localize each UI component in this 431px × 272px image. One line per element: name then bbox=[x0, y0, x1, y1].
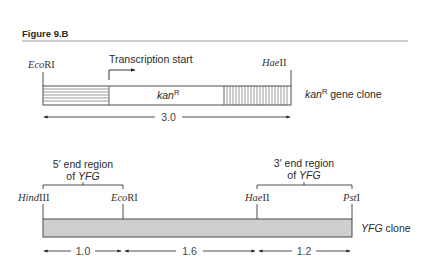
figure-diagram: Figure 9.B EcoRI HaeII Transcription sta… bbox=[0, 0, 431, 272]
kanR-clone-caption: kanR gene clone bbox=[305, 87, 382, 100]
site-label-ecori-bottom: EcoRI bbox=[110, 192, 138, 203]
site-label-psti: PstI bbox=[342, 192, 360, 203]
site-label-haeii-bottom: HaeII bbox=[244, 192, 270, 203]
five-prime-bracket bbox=[43, 182, 123, 189]
distance-label: 1.2 bbox=[297, 245, 312, 257]
transcription-start-arrow-icon bbox=[109, 70, 135, 80]
transcription-start-label: Transcription start bbox=[109, 53, 193, 65]
distance-1-6: 1.6 bbox=[125, 245, 255, 257]
three-prime-bracket bbox=[257, 182, 352, 189]
five-prime-region-label-line1: 5′ end region bbox=[53, 158, 114, 170]
five-prime-region-label-line2: of YFG bbox=[66, 170, 99, 182]
kanR-gene-clone: EcoRI HaeII Transcription start kanR bbox=[27, 53, 382, 123]
yfg-clone: 5′ end region of YFG 3′ end region of YF… bbox=[17, 157, 411, 257]
distance-label: 1.0 bbox=[76, 245, 91, 257]
yfg-clone-caption: YFG clone bbox=[361, 222, 411, 234]
three-prime-region-label-line2: of YFG bbox=[287, 169, 320, 181]
site-label-haeii-top: HaeII bbox=[261, 57, 287, 68]
distance-label: 1.6 bbox=[182, 245, 197, 257]
figure-title: Figure 9.B bbox=[22, 28, 69, 39]
distance-1-2: 1.2 bbox=[259, 245, 350, 257]
three-prime-region-label-line1: 3′ end region bbox=[274, 157, 335, 169]
length-label: 3.0 bbox=[161, 111, 176, 123]
yfg-clone-bar bbox=[43, 219, 352, 237]
length-dimension-3-0: 3.0 bbox=[44, 111, 290, 123]
site-label-hindiii: HindIII bbox=[17, 192, 50, 203]
site-label-ecori-top: EcoRI bbox=[27, 59, 55, 70]
distance-1-0: 1.0 bbox=[44, 245, 121, 257]
